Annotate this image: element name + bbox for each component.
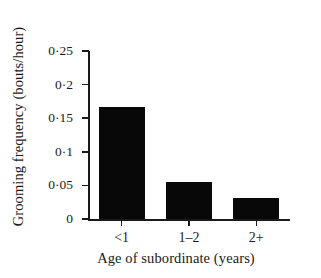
x-axis-tick-label: <1 (88, 231, 155, 245)
x-axis-tick-label: 2+ (223, 231, 290, 245)
bar (166, 182, 212, 219)
y-axis-tick-label: 0·15 (48, 111, 73, 125)
x-axis-tick (188, 219, 190, 226)
bar (99, 107, 145, 219)
x-axis-title: Age of subordinate (years) (60, 250, 292, 267)
bar (233, 198, 279, 220)
y-axis-tick-label: 0 (66, 212, 73, 226)
y-axis-tick-label: 0·1 (55, 145, 73, 159)
plot-area: 00·050·10·150·20·25 <11–22+ (88, 51, 290, 219)
y-axis-tick-label: 0·2 (55, 78, 73, 92)
y-axis-tick-label: 0·05 (48, 178, 73, 192)
y-axis-title: Grooming frequency (bouts/hour) (10, 17, 27, 237)
x-axis-tick-label: 1–2 (155, 231, 222, 245)
x-axis-tick (121, 219, 123, 226)
y-axis-tick-label: 0·25 (48, 44, 73, 58)
chart-figure: Grooming frequency (bouts/hour) Age of s… (0, 0, 321, 278)
bars-layer (88, 51, 290, 219)
x-axis-tick (256, 219, 258, 226)
